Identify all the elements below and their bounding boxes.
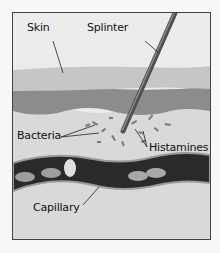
epidermis-layer — [13, 66, 210, 91]
label-capillary: Capillary — [33, 201, 80, 214]
label-splinter: Splinter — [87, 21, 128, 34]
label-bacteria: Bacteria — [17, 129, 61, 142]
diagram-frame: Skin Splinter Bacteria Histamines Capill… — [12, 12, 211, 240]
label-skin: Skin — [27, 21, 50, 34]
label-histamines: Histamines — [149, 141, 208, 154]
